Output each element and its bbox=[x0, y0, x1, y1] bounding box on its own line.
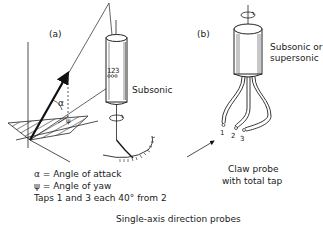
panel-b-caption-line2: with total tap bbox=[222, 176, 282, 187]
panel-b-tap-number-1: 1 bbox=[220, 128, 224, 139]
psi-symbol: ψ bbox=[66, 116, 71, 127]
pointer-line bbox=[117, 140, 134, 158]
panel-b-tap-number-3: 3 bbox=[240, 134, 244, 145]
flow-direction-arrow bbox=[187, 141, 214, 157]
reference-line bbox=[109, 3, 112, 35]
figure-caption: Single-axis direction probes bbox=[116, 214, 241, 225]
rotation-arrowhead bbox=[121, 115, 123, 118]
plane-edge-line bbox=[30, 140, 70, 162]
panel-b-drawing bbox=[187, 5, 271, 157]
panel-a-drawing bbox=[8, 3, 155, 162]
tap-hole-1 bbox=[222, 124, 225, 127]
panel-a-tap-number-3: 3 bbox=[115, 66, 119, 77]
rotation-arrowhead bbox=[252, 12, 254, 15]
legend-line-taps: Taps 1 and 3 each 40° from 2 bbox=[34, 193, 167, 204]
panel-a-label: (a) bbox=[49, 29, 62, 40]
tap-hole-3 bbox=[243, 129, 246, 132]
panel-b-probe-label-line1: Subsonic or bbox=[270, 42, 323, 53]
panel-a-probe-label: Subsonic bbox=[132, 85, 172, 96]
legend-line-psi: ψ = Angle of yaw bbox=[34, 181, 111, 192]
probe-cylinder-top bbox=[234, 24, 262, 34]
alpha-symbol: α bbox=[58, 98, 64, 109]
panel-b-tap-number-2: 2 bbox=[231, 131, 235, 142]
probe-cylinder-top bbox=[106, 35, 127, 42]
panel-b-caption-line1: Claw probe bbox=[228, 164, 279, 175]
panel-b-probe-label-line2: supersonic bbox=[270, 53, 319, 64]
legend-line-alpha: α = Angle of attack bbox=[34, 169, 121, 180]
claw-tubes bbox=[222, 77, 271, 131]
panel-b-label: (b) bbox=[197, 29, 210, 40]
